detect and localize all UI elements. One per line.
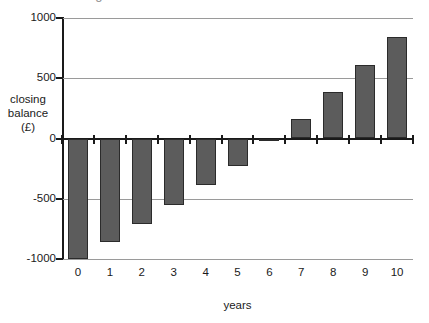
x-axis-tick-label: 5 xyxy=(223,266,253,278)
x-axis-tick-label: 9 xyxy=(350,266,380,278)
y-axis-tick-label: -1000 xyxy=(2,253,56,265)
bar xyxy=(196,139,216,186)
x-axis-title: years xyxy=(62,299,413,311)
y-axis-tick xyxy=(56,17,63,19)
x-axis-tick-label: 8 xyxy=(318,266,348,278)
bar xyxy=(387,37,407,139)
x-axis-tick xyxy=(93,135,95,144)
x-axis-tick-label: 2 xyxy=(127,266,157,278)
y-axis-tick-label: 500 xyxy=(2,72,56,84)
x-axis-tick-label: 7 xyxy=(286,266,316,278)
gridline xyxy=(62,259,413,260)
y-axis-title-line-3: (£) xyxy=(0,120,56,134)
bar xyxy=(68,139,88,260)
x-axis-tick xyxy=(252,135,254,144)
x-axis-tick xyxy=(189,135,191,144)
y-axis-tick-label: 0 xyxy=(2,133,56,145)
x-axis-tick xyxy=(316,135,318,144)
bar xyxy=(259,139,279,141)
x-axis-tick xyxy=(221,135,223,144)
y-axis-tick xyxy=(56,258,63,260)
x-axis-tick xyxy=(380,135,382,144)
bar xyxy=(323,92,343,138)
y-axis-title-line-2: balance xyxy=(0,106,56,120)
x-axis-tick-label: 0 xyxy=(63,266,93,278)
plot-area xyxy=(62,18,413,259)
y-axis-tick-label: 1000 xyxy=(2,12,56,24)
bar xyxy=(164,139,184,206)
y-axis-tick xyxy=(56,198,63,200)
x-axis-tick-label: 1 xyxy=(95,266,125,278)
x-axis-tick-label: 4 xyxy=(191,266,221,278)
x-axis-tick-label: 6 xyxy=(254,266,284,278)
x-axis-tick-label: 3 xyxy=(159,266,189,278)
y-axis-labels: 10005000-500-1000 xyxy=(0,0,56,323)
x-axis-tick-label: 10 xyxy=(382,266,412,278)
bar xyxy=(228,139,248,166)
gridline xyxy=(62,18,413,19)
y-axis-tick-label: -500 xyxy=(2,193,56,205)
bar xyxy=(132,139,152,225)
bar xyxy=(291,119,311,138)
x-axis-tick xyxy=(125,135,127,144)
x-axis-tick xyxy=(412,135,414,144)
bar-chart: closing balance 10005000-500-1000 closin… xyxy=(0,0,429,323)
cropped-chart-title: closing balance xyxy=(0,0,429,7)
y-axis-title-line-1: closing xyxy=(0,92,56,106)
x-axis-tick xyxy=(157,135,159,144)
bar xyxy=(355,65,375,139)
y-axis-tick xyxy=(56,77,63,79)
cropped-chart-title-text: closing balance xyxy=(62,0,152,2)
x-axis-tick xyxy=(284,135,286,144)
y-axis-tick xyxy=(56,138,63,140)
x-axis-tick xyxy=(348,135,350,144)
bar xyxy=(100,139,120,243)
y-axis-title: closing balance (£) xyxy=(0,92,56,134)
